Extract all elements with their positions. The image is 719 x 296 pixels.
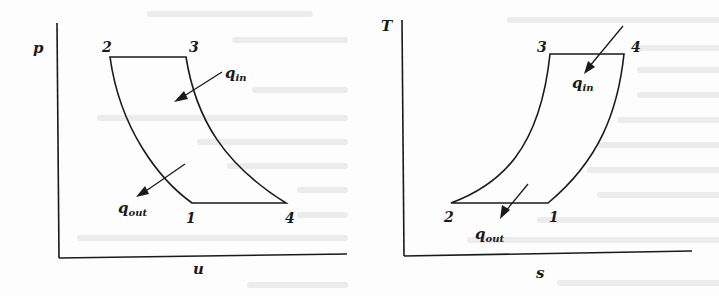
pu-qin-arrow [174,72,222,102]
ts-qin-label: qin [572,76,594,93]
figure-canvas: p u 2 3 1 4 qin qout T s 3 4 2 1 qin qou… [0,0,719,296]
pu-qout-symbol: q [118,199,129,217]
ts-qin-arrow [584,26,623,74]
pu-qin-subscript: in [236,72,247,83]
pu-qout-subscript: out [129,207,148,218]
ts-state-4-label: 4 [631,40,641,54]
pu-cycle-path [110,57,286,203]
ts-qout-subscript: out [486,233,505,244]
ts-x-axis-label: s [536,266,544,281]
ts-qout-arrow [500,184,528,219]
ts-y-axis [402,20,404,256]
ts-state-2-label: 2 [444,210,454,224]
pu-qin-symbol: q [225,64,236,82]
ts-qin-subscript: in [583,82,594,93]
pu-state-2-label: 2 [102,40,112,54]
pu-y-axis-label: p [33,41,44,56]
ts-qin-symbol: q [572,74,583,92]
ts-state-3-label: 3 [537,40,547,54]
pu-y-axis [57,23,59,258]
ts-state-1-label: 1 [549,210,559,224]
ts-x-axis [404,251,692,256]
pu-qout-label: qout [118,201,147,218]
pu-state-1-label: 1 [186,211,196,225]
ts-qout-symbol: q [475,225,486,243]
pu-qin-label: qin [225,66,247,83]
ts-cycle-path [451,54,624,203]
pu-x-axis [59,254,347,258]
ts-qout-label: qout [475,227,504,244]
pu-state-4-label: 4 [285,211,295,225]
pu-state-3-label: 3 [189,40,199,54]
ts-y-axis-label: T [381,19,392,34]
pu-x-axis-label: u [193,262,204,277]
